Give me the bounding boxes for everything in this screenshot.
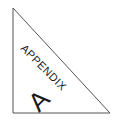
triangle-shape xyxy=(0,0,118,124)
appendix-badge: APPENDIX A xyxy=(0,0,118,124)
